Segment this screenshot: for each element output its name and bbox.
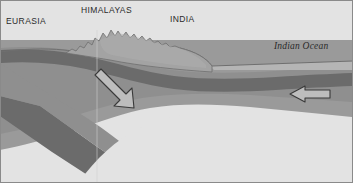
label-indian-ocean: Indian Ocean [274, 42, 328, 52]
label-eurasia: EURASIA [6, 17, 46, 26]
label-himalayas: HIMALAYAS [81, 6, 132, 15]
geologic-cross-section-diagram [0, 0, 353, 183]
label-india: INDIA [170, 15, 195, 24]
cross-section-figure: EURASIA HIMALAYAS INDIA Indian Ocean [0, 0, 353, 183]
